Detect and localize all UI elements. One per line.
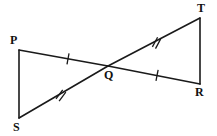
geometry-figure: P S T R Q: [0, 0, 217, 136]
vertex-label-t: T: [197, 2, 205, 14]
segment-sq: [19, 66, 108, 118]
segment-pq: [19, 50, 108, 66]
segment-qt: [108, 18, 200, 66]
segment-qr: [108, 66, 200, 84]
vertex-label-s: S: [13, 121, 20, 133]
vertex-label-r: R: [195, 86, 204, 98]
vertex-label-p: P: [10, 34, 17, 46]
vertex-label-q: Q: [104, 69, 113, 81]
